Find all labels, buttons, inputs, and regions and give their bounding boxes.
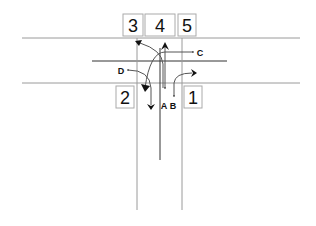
movement-a-path — [161, 42, 169, 89]
intersection-diagram: 3 4 5 2 1 A B C — [0, 0, 316, 226]
movement-b-label: B — [170, 101, 177, 111]
movement-d-label: D — [118, 66, 125, 76]
zone-5-label: 5 — [182, 16, 192, 36]
zone-2-box: 2 — [116, 86, 134, 108]
zone-1-box: 1 — [184, 86, 202, 108]
zone-3-box: 3 — [123, 14, 143, 36]
movement-c-label: C — [197, 48, 204, 58]
arrow-downleft-icon — [141, 84, 150, 92]
zone-3-label: 3 — [128, 16, 138, 36]
zone-4-box: 4 — [145, 14, 175, 36]
movement-a-label: A — [161, 101, 168, 111]
zone-1-label: 1 — [188, 88, 198, 108]
zone-4-label: 4 — [155, 16, 165, 36]
zone-5-box: 5 — [178, 14, 196, 36]
zone-2-label: 2 — [120, 88, 130, 108]
